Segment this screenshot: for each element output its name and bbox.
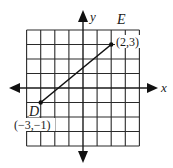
coordinate-plane: x y D (−3,−1) E (2,3) (0, 0, 173, 168)
point-D-coordinates: (−3,−1) (14, 118, 51, 132)
y-axis-down-arrow-icon (78, 151, 88, 163)
x-axis-label: x (160, 80, 167, 95)
point-D (39, 100, 43, 104)
point-E-coordinates: (2,3) (116, 35, 139, 49)
x-axis-right-arrow-icon (147, 83, 158, 93)
point-E (109, 42, 113, 46)
axes: x y (9, 9, 167, 163)
point-E-name: E (116, 12, 126, 27)
y-axis-up-arrow-icon (78, 10, 88, 22)
y-axis-label: y (88, 9, 96, 24)
point-D-name: D (28, 104, 39, 119)
x-axis-left-arrow-icon (9, 83, 20, 93)
